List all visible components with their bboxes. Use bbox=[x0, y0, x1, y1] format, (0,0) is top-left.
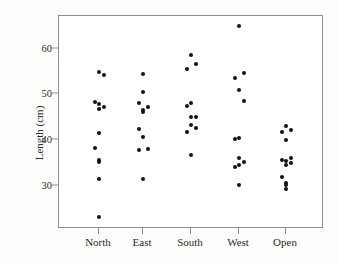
data-point bbox=[280, 158, 284, 162]
data-point bbox=[194, 62, 198, 66]
data-point bbox=[189, 53, 193, 57]
data-point bbox=[189, 123, 193, 127]
data-point bbox=[97, 131, 101, 135]
data-point bbox=[280, 130, 284, 134]
data-point bbox=[242, 71, 246, 75]
y-tick-label-30: 30 bbox=[42, 180, 53, 191]
y-tick-label-60: 60 bbox=[42, 43, 53, 54]
data-point bbox=[97, 215, 101, 219]
data-point bbox=[189, 153, 193, 157]
data-point bbox=[146, 105, 150, 109]
data-point bbox=[146, 147, 150, 151]
data-point bbox=[242, 160, 246, 164]
data-point bbox=[237, 136, 241, 140]
data-point bbox=[194, 115, 198, 119]
data-point bbox=[97, 70, 101, 74]
x-tick-mark-open bbox=[285, 228, 286, 234]
y-tick-label-50: 50 bbox=[42, 88, 53, 99]
data-point bbox=[93, 100, 97, 104]
data-point bbox=[233, 165, 237, 169]
data-point bbox=[141, 72, 145, 76]
data-point bbox=[284, 187, 288, 191]
data-point bbox=[102, 105, 106, 109]
y-axis-tick-labels: 30 40 50 60 bbox=[28, 0, 52, 213]
data-point bbox=[289, 128, 293, 132]
data-point bbox=[185, 104, 189, 108]
x-tick-label-west: West bbox=[227, 236, 249, 248]
x-tick-mark-north bbox=[98, 228, 99, 234]
data-point bbox=[237, 183, 241, 187]
data-point bbox=[237, 156, 241, 160]
x-tick-label-east: East bbox=[133, 236, 152, 248]
data-point bbox=[93, 146, 97, 150]
data-point bbox=[237, 163, 241, 167]
data-point bbox=[289, 161, 293, 165]
data-point bbox=[284, 163, 288, 167]
data-point bbox=[137, 148, 141, 152]
data-point bbox=[242, 99, 246, 103]
data-point bbox=[97, 177, 101, 181]
x-tick-mark-east bbox=[142, 228, 143, 234]
data-point bbox=[237, 88, 241, 92]
data-point bbox=[237, 24, 241, 28]
data-point bbox=[185, 67, 189, 71]
data-point bbox=[141, 135, 145, 139]
y-tick-label-40: 40 bbox=[42, 134, 53, 145]
x-tick-label-south: South bbox=[177, 236, 203, 248]
data-point bbox=[280, 175, 284, 179]
x-tick-label-open: Open bbox=[273, 236, 297, 248]
data-point bbox=[194, 126, 198, 130]
x-tick-mark-west bbox=[238, 228, 239, 234]
data-point bbox=[97, 160, 101, 164]
plot-area bbox=[58, 15, 323, 228]
data-point bbox=[97, 107, 101, 111]
data-point bbox=[137, 101, 141, 105]
data-point bbox=[141, 90, 145, 94]
data-point bbox=[141, 110, 145, 114]
scatter-plot-figure: Length (cm) 30 40 50 60 North East South… bbox=[0, 0, 338, 265]
data-point bbox=[137, 127, 141, 131]
data-point bbox=[189, 115, 193, 119]
data-point bbox=[185, 130, 189, 134]
data-point bbox=[289, 156, 293, 160]
data-point bbox=[233, 76, 237, 80]
x-tick-label-north: North bbox=[85, 236, 111, 248]
data-point bbox=[97, 102, 101, 106]
data-point bbox=[284, 124, 288, 128]
x-tick-mark-south bbox=[190, 228, 191, 234]
data-point bbox=[141, 177, 145, 181]
data-point bbox=[102, 73, 106, 77]
data-point bbox=[233, 137, 237, 141]
data-point bbox=[189, 101, 193, 105]
data-point bbox=[284, 138, 288, 142]
